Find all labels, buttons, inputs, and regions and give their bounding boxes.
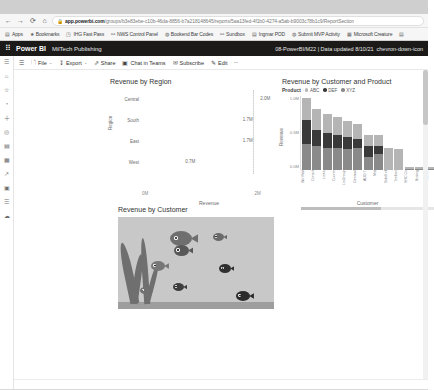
nav-deploy[interactable]: ☁ — [4, 213, 10, 219]
nav-home[interactable]: ⌂ — [5, 73, 9, 79]
column-segment[interactable] — [302, 98, 311, 120]
visual-revenue-by-customer[interactable]: Revenue by Customer — [118, 206, 274, 316]
column-series-area[interactable] — [300, 96, 434, 170]
toolbar-menu-button[interactable]: ☰ — [19, 60, 24, 66]
nav-toggle[interactable]: ☰ — [4, 59, 9, 65]
column-segment[interactable] — [364, 146, 373, 156]
column-segment[interactable] — [323, 133, 332, 148]
nav-create[interactable]: ＋ — [4, 115, 10, 121]
column-segment[interactable] — [302, 144, 311, 170]
nav-shared[interactable]: ↗ — [4, 171, 9, 177]
chat-in-teams-button[interactable]: ▣Chat in Teams — [122, 60, 165, 66]
visual-revenue-by-region[interactable]: Revenue by Region Region Central 2.0M So… — [110, 78, 276, 200]
scrollbar-thumb[interactable] — [423, 70, 428, 125]
column-segment[interactable] — [374, 135, 383, 146]
column-segment[interactable] — [333, 135, 342, 148]
nav-workspaces[interactable]: ▣ — [4, 185, 10, 191]
legend-item[interactable]: DEF — [323, 88, 337, 93]
file-button[interactable]: 🗋File⌄ — [31, 58, 52, 67]
column-stack[interactable] — [302, 98, 311, 170]
fish-bubble[interactable] — [140, 287, 150, 294]
edit-button[interactable]: ✎Edit — [211, 60, 227, 66]
share-button[interactable]: ⇗Share — [94, 60, 116, 66]
fish-bubble[interactable] — [151, 261, 165, 271]
address-bar[interactable]: 🔒 app.powerbi.com/groups/b3e83ebe-c10b-4… — [52, 16, 424, 26]
column-segment[interactable] — [353, 139, 362, 148]
column-stack[interactable] — [384, 148, 393, 170]
bookmark-item[interactable]: ▤Apps — [5, 31, 23, 37]
column-segment[interactable] — [343, 121, 352, 137]
app-launcher-icon[interactable]: ⠿ — [5, 45, 10, 53]
legend-item[interactable]: XYZ — [341, 88, 355, 93]
forward-button[interactable]: → — [16, 17, 25, 24]
visual-revenue-by-customer-and-product[interactable]: Revenue by Customer and Product Product … — [282, 78, 434, 203]
fish-bubble[interactable] — [213, 233, 224, 241]
column-segment[interactable] — [353, 148, 362, 170]
tab-strip[interactable] — [0, 0, 428, 14]
column-stack[interactable] — [353, 124, 362, 170]
column-segment[interactable] — [343, 137, 352, 149]
column-segment[interactable] — [343, 149, 352, 170]
bar-row[interactable]: South 1.7M — [110, 111, 276, 129]
column-segment[interactable] — [353, 124, 362, 139]
bookmark-item[interactable]: ◍Bookend Bar Codes — [165, 31, 213, 37]
fish-bubble[interactable] — [236, 291, 250, 301]
column-segment[interactable] — [333, 148, 342, 170]
bar-row[interactable]: West 0.7M — [110, 153, 276, 171]
bar-row[interactable]: East 1.7M — [110, 132, 276, 150]
fish-bubble[interactable] — [219, 264, 231, 273]
export-button[interactable]: ↧Export⌄ — [59, 60, 87, 66]
scrollbar-thumb[interactable] — [301, 207, 381, 210]
bookmark-item[interactable]: ★Bookmarks — [30, 31, 60, 37]
powerbi-brand[interactable]: Power BI — [16, 45, 46, 52]
bookmark-item[interactable]: ▤Ingmar POD — [252, 31, 285, 37]
column-stack[interactable] — [394, 149, 403, 170]
nav-datahub[interactable]: ▦ — [4, 157, 10, 163]
fish-bubble[interactable] — [174, 245, 189, 256]
column-segment[interactable] — [394, 149, 403, 170]
column-segment[interactable] — [364, 157, 373, 170]
nav-favorites[interactable]: ☆ — [4, 87, 9, 93]
bar-row[interactable]: Central 2.0M — [110, 90, 276, 108]
column-stack[interactable] — [333, 117, 342, 170]
column-segment[interactable] — [333, 117, 342, 135]
column-segment[interactable] — [312, 109, 321, 130]
back-button[interactable]: ← — [4, 17, 13, 24]
column-segment[interactable] — [364, 135, 373, 147]
nav-apps[interactable]: ▤ — [4, 143, 10, 149]
subscribe-button[interactable]: ✉Subscribe — [173, 60, 204, 66]
aquarium-canvas[interactable] — [118, 217, 274, 309]
bookmark-item[interactable]: ⚯NWS Control Panel — [111, 31, 158, 37]
column-segment[interactable] — [323, 148, 332, 170]
nav-recent[interactable]: ◔ — [5, 101, 9, 107]
more-options-button[interactable]: ⋯ — [234, 60, 238, 65]
horizontal-scrollbar[interactable] — [301, 207, 434, 210]
bookmark-item[interactable]: ◍Submit MVP Activity — [292, 31, 340, 37]
column-segment[interactable] — [374, 146, 383, 153]
column-segment[interactable] — [384, 148, 393, 170]
column-stack[interactable] — [374, 135, 383, 170]
fish-bubble[interactable] — [170, 231, 192, 246]
fish-bubble[interactable] — [173, 283, 184, 291]
column-stack[interactable] — [364, 135, 373, 171]
column-segment[interactable] — [312, 146, 321, 170]
workspace-name[interactable]: MilTech Publishing — [52, 46, 102, 52]
column-stack[interactable] — [343, 121, 352, 170]
chevron-down-icon[interactable]: chevron-down-icon — [377, 46, 423, 52]
column-segment[interactable] — [312, 130, 321, 146]
column-segment[interactable] — [374, 154, 383, 170]
column-segment[interactable] — [323, 114, 332, 133]
column-segment[interactable] — [302, 120, 311, 144]
bookmark-item[interactable]: ◳IHG Fast Pass — [66, 31, 104, 37]
nav-goals[interactable]: ◎ — [4, 129, 9, 135]
column-stack[interactable] — [312, 109, 321, 170]
bookmark-item[interactable]: ⚯Sundbox — [220, 31, 245, 37]
reload-button[interactable]: ⟳ — [28, 17, 37, 25]
home-button[interactable]: ⌂ — [40, 17, 49, 24]
bookmark-item[interactable]: ▦Microsoft Creature — [347, 31, 392, 37]
legend-item[interactable]: ABC — [305, 88, 319, 93]
bookmark-overflow[interactable]: ▤ — [399, 31, 404, 37]
column-stack[interactable] — [323, 114, 332, 170]
nav-datasets[interactable]: ☰ — [4, 199, 9, 205]
canvas-vertical-scrollbar[interactable] — [423, 70, 428, 379]
